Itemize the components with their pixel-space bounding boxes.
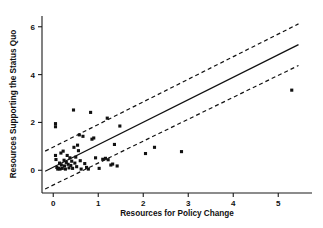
data-point: [98, 167, 101, 170]
data-point: [68, 156, 71, 159]
data-point: [63, 164, 66, 167]
data-point: [113, 143, 116, 146]
x-tick-label: 1: [96, 199, 101, 208]
x-tick-label: 0: [51, 199, 56, 208]
y-tick-label: 0: [31, 166, 36, 175]
data-point: [77, 149, 80, 152]
x-tick-label: 2: [141, 199, 146, 208]
data-point: [87, 168, 90, 171]
data-point: [60, 163, 63, 166]
data-point: [76, 144, 79, 147]
y-tick-label: 6: [31, 23, 36, 32]
data-point: [54, 125, 57, 128]
data-point: [79, 159, 82, 162]
x-tick-label: 4: [231, 199, 236, 208]
data-point: [111, 163, 114, 166]
confidence-bands: [45, 24, 298, 189]
data-point: [89, 111, 92, 114]
confidence-band-0: [45, 24, 298, 151]
data-point: [66, 154, 69, 157]
data-point: [80, 168, 83, 171]
data-point: [94, 156, 97, 159]
y-axis-title: Resources Supporting the Status Quo: [9, 30, 18, 178]
data-point: [106, 117, 109, 120]
regression-line: [45, 45, 298, 172]
data-point: [75, 165, 78, 168]
data-point: [54, 122, 57, 125]
x-tick-label: 5: [276, 199, 281, 208]
data-point: [71, 167, 74, 170]
data-point: [290, 89, 293, 92]
data-point: [72, 146, 75, 149]
data-point: [83, 162, 86, 165]
data-point: [101, 158, 104, 161]
data-point: [74, 156, 77, 159]
fit-line: [45, 45, 298, 172]
data-point: [92, 136, 95, 139]
data-point: [104, 157, 107, 160]
data-point: [54, 158, 57, 161]
data-point: [81, 135, 84, 138]
data-point: [70, 160, 73, 163]
y-tick-label: 2: [31, 118, 36, 127]
data-point: [73, 162, 76, 165]
plot-canvas: 012345 0246 Resources for Policy Change …: [0, 0, 323, 228]
data-point: [72, 108, 75, 111]
data-point: [69, 164, 72, 167]
data-point: [144, 152, 147, 155]
data-point: [118, 124, 121, 127]
data-point: [116, 164, 119, 167]
y-axis-ticks: 0246: [31, 23, 42, 176]
data-point: [54, 154, 57, 157]
confidence-band-1: [45, 66, 298, 189]
x-axis-ticks: 012345: [51, 193, 281, 208]
x-tick-label: 3: [186, 199, 191, 208]
data-point: [62, 150, 65, 153]
axes: [42, 16, 312, 193]
data-point: [180, 150, 183, 153]
y-tick-label: 4: [31, 71, 36, 80]
data-point: [78, 133, 81, 136]
data-point: [153, 146, 156, 149]
scatter-plot-figure: 012345 0246 Resources for Policy Change …: [0, 0, 323, 228]
data-points: [54, 89, 293, 171]
data-point: [67, 163, 70, 166]
x-axis-title: Resources for Policy Change: [120, 209, 234, 218]
data-point: [107, 158, 110, 161]
data-point: [64, 168, 67, 171]
